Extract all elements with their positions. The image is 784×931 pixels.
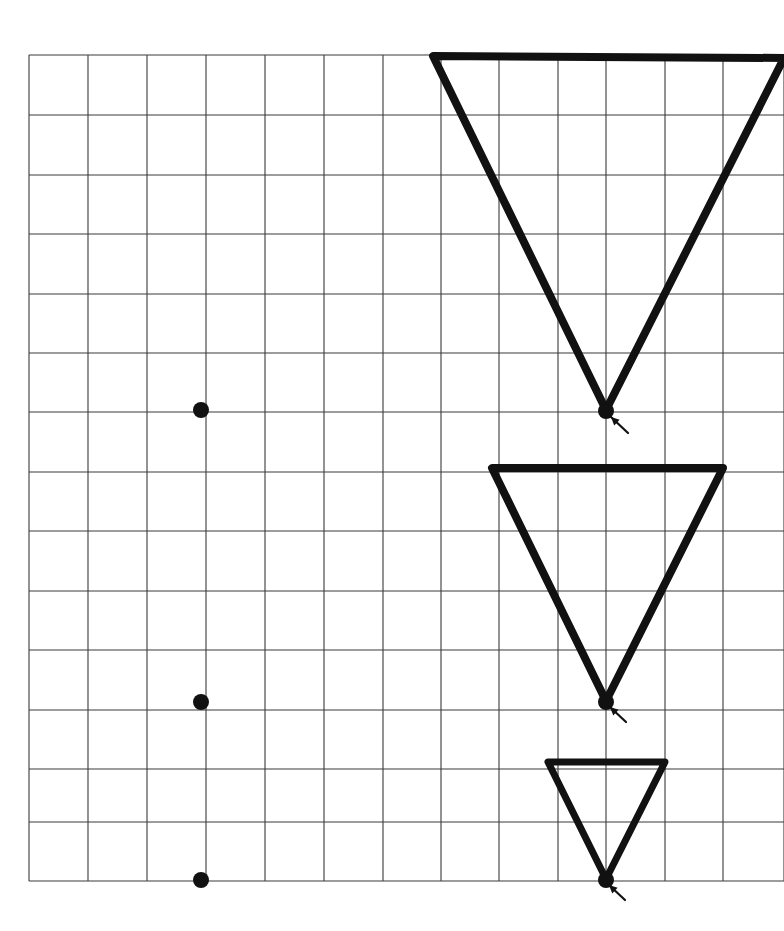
left-dot-middle — [193, 694, 209, 710]
left-dot-upper — [193, 402, 209, 418]
figure-canvas — [0, 0, 784, 931]
apex-dot-small — [598, 872, 614, 888]
left-dot-lower — [193, 872, 209, 888]
geometry-figure — [0, 0, 784, 931]
